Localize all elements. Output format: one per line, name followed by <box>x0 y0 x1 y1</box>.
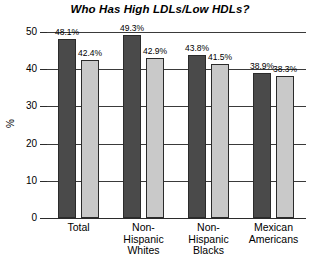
bar <box>211 64 229 218</box>
bar <box>276 76 294 218</box>
x-axis-line <box>46 218 306 219</box>
bar <box>58 39 76 218</box>
x-axis-category-label: Total <box>42 222 115 234</box>
bar-value-label: 42.4% <box>73 49 107 58</box>
x-axis-category-label: Non- Hispanic Blacks <box>172 222 245 257</box>
bar-value-label: 42.9% <box>138 47 172 56</box>
bar-value-label: 38.3% <box>268 65 302 74</box>
gridline <box>46 32 306 33</box>
bar <box>81 60 99 218</box>
bar <box>123 35 141 218</box>
bar-value-label: 48.1% <box>50 28 84 37</box>
chart-title: Who Has High LDLs/Low HDLs? <box>0 3 320 15</box>
plot-area <box>46 32 306 218</box>
y-tick-mark <box>40 144 47 145</box>
x-axis-category-label: Mexican Americans <box>237 222 310 245</box>
y-tick-mark <box>40 181 47 182</box>
y-tick-mark <box>40 69 47 70</box>
y-axis-label: % <box>5 109 16 139</box>
y-tick-label: 20 <box>11 139 37 149</box>
bar <box>253 73 271 218</box>
x-axis-category-label: Non- Hispanic Whites <box>107 222 180 257</box>
y-tick-label: 50 <box>11 27 37 37</box>
y-tick-mark <box>40 106 47 107</box>
y-tick-mark <box>40 218 47 219</box>
bar-value-label: 41.5% <box>203 53 237 62</box>
y-tick-mark <box>40 32 47 33</box>
bar <box>188 55 206 218</box>
y-tick-label: 40 <box>11 64 37 74</box>
bar <box>146 58 164 218</box>
y-tick-label: 30 <box>11 101 37 111</box>
y-tick-label: 0 <box>11 213 37 223</box>
y-tick-label: 10 <box>11 176 37 186</box>
bar-chart: Who Has High LDLs/Low HDLs? % 0102030405… <box>0 0 320 266</box>
bar-value-label: 49.3% <box>115 24 149 33</box>
